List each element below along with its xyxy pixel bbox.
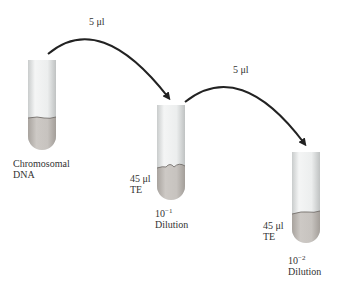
tube-1-label: Chromosomal DNA <box>13 158 70 180</box>
tube-1-label-line2: DNA <box>13 169 70 180</box>
tube-3-buffer: TE <box>263 231 284 242</box>
dilution-diagram <box>0 0 338 291</box>
transfer-arrow-2 <box>185 87 304 143</box>
tube-2-dilution-base: 10 <box>155 208 165 219</box>
tube-2-dilution-exp: −1 <box>165 207 172 215</box>
tube-1-label-line1: Chromosomal <box>13 158 70 169</box>
tube-dilution-1 <box>157 105 185 200</box>
tube-chromosomal-dna <box>28 60 56 150</box>
tube-3-dilution-exp: −2 <box>298 254 305 262</box>
transfer-label-1: 5 μl <box>89 16 105 27</box>
tube-3-volume-label: 45 μl TE <box>263 220 284 242</box>
tube-2-buffer: TE <box>130 184 151 195</box>
tube-dilution-2 <box>292 152 320 243</box>
tube-2-volume: 45 μl <box>130 173 151 184</box>
transfer-arrow-1 <box>48 39 168 97</box>
tube-2-volume-label: 45 μl TE <box>130 173 151 195</box>
tube-3-dilution-label: 10−2 Dilution <box>288 255 321 277</box>
tube-2-dilution-label: 10−1 Dilution <box>155 208 188 230</box>
tube-3-volume: 45 μl <box>263 220 284 231</box>
tube-3-dilution-word: Dilution <box>288 266 321 277</box>
transfer-label-2: 5 μl <box>233 64 249 75</box>
tube-3-dilution-base: 10 <box>288 255 298 266</box>
tube-2-dilution-word: Dilution <box>155 219 188 230</box>
